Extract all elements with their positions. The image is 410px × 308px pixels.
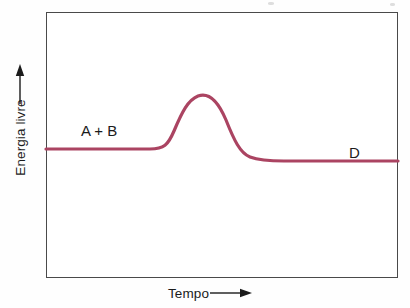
free-energy-diagram-figure: A + B D Energia livre Tempo (0, 0, 410, 308)
y-axis-label-group: Energia livre (2, 64, 38, 240)
arrow-right-icon (210, 287, 252, 299)
energy-profile-curve (46, 12, 398, 278)
x-axis-title: Tempo (168, 286, 209, 301)
scan-artifact (268, 2, 274, 5)
products-label: D (349, 144, 360, 161)
y-axis-title: Energia livre (13, 68, 28, 208)
scan-artifact (390, 3, 395, 6)
reactants-label: A + B (81, 122, 117, 139)
x-axis-label-group: Tempo (168, 283, 252, 303)
